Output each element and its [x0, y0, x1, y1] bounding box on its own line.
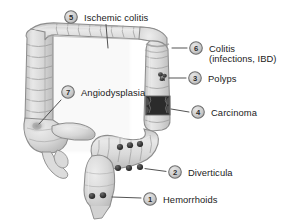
marker-label-hemorrhoids: Hemorrhoids	[163, 194, 218, 205]
marker-label-diverticula: Diverticula	[188, 167, 233, 178]
badge-number-3: 3	[193, 74, 197, 83]
marker-label-polyps: Polyps	[208, 73, 237, 84]
marker-label-carcinoma: Carcinoma	[211, 107, 258, 118]
leader-carcinoma	[171, 109, 189, 112]
descending-colon	[144, 41, 170, 131]
badge-number-7: 7	[66, 88, 70, 97]
badge-number-6: 6	[194, 44, 198, 53]
leader-hemorrhoids	[112, 197, 141, 198]
carcinoma-lesion	[146, 96, 171, 115]
rectum	[84, 155, 115, 219]
marker-diverticula[interactable]: 2 Diverticula	[169, 166, 234, 179]
marker-polyps[interactable]: 3 Polyps	[189, 72, 237, 85]
marker-colitis[interactable]: 6 Colitis (infections, IBD)	[190, 42, 277, 65]
marker-label-angiodysplasia: Angiodysplasia	[81, 87, 146, 98]
leader-diverticula	[145, 169, 166, 172]
marker-label-colitis: Colitis	[209, 43, 235, 54]
marker-carcinoma[interactable]: 4 Carcinoma	[192, 106, 258, 119]
marker-hemorrhoids[interactable]: 1 Hemorrhoids	[144, 193, 218, 206]
marker-label-ischemic-colitis: Ischemic colitis	[84, 12, 149, 23]
angiodysplasia-lesion	[28, 119, 46, 133]
badge-number-2: 2	[173, 168, 177, 177]
marker-sublabel-colitis: (infections, IBD)	[209, 53, 277, 64]
marker-ischemic-colitis[interactable]: 5 Ischemic colitis	[65, 11, 149, 24]
colon-anatomy-figure: 1 Hemorrhoids 2 Diverticula 3 Polyps 4 C…	[0, 0, 295, 223]
colon-illustration	[24, 23, 170, 219]
